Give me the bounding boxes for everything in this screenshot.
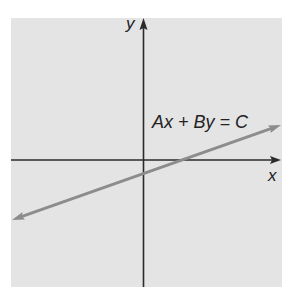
y-axis: [140, 18, 148, 287]
coordinate-plane-figure: y x Ax + By = C: [0, 0, 282, 307]
graphed-line: [12, 125, 281, 220]
x-axis: [11, 156, 281, 164]
equation-label: Ax + By = C: [151, 112, 249, 132]
y-axis-label: y: [125, 14, 136, 33]
graph-canvas: y x Ax + By = C: [0, 0, 282, 307]
x-axis-label: x: [267, 166, 277, 185]
